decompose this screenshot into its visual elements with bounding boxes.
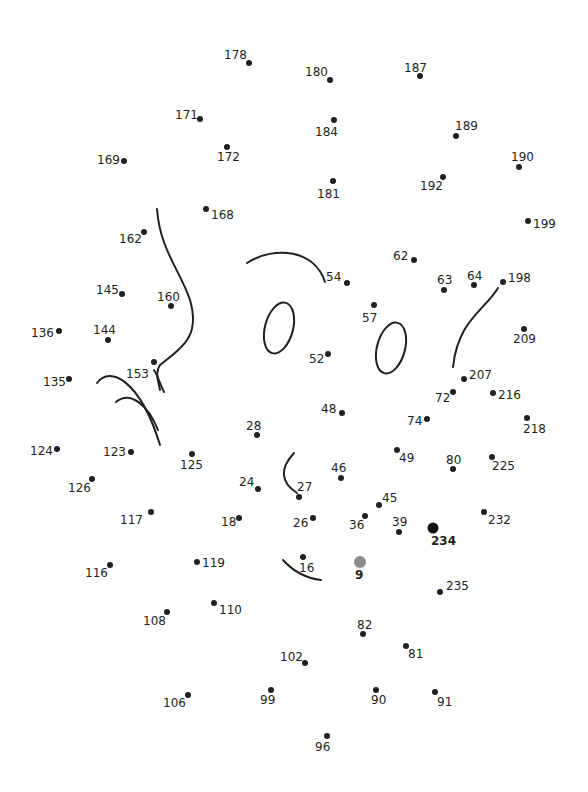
right-eye-ellipse: [371, 319, 412, 376]
dot-234[interactable]: [428, 523, 439, 534]
dot-label: 36: [349, 519, 364, 531]
dot-label: 116: [85, 567, 108, 579]
dot-46[interactable]: [338, 475, 344, 481]
dot-184[interactable]: [331, 117, 337, 123]
dot-label: 145: [96, 284, 119, 296]
dot-label: 153: [126, 368, 149, 380]
brow-arc: [247, 253, 325, 282]
dot-169[interactable]: [121, 158, 127, 164]
dot-181[interactable]: [330, 178, 336, 184]
dot-145[interactable]: [119, 291, 125, 297]
left-eye-ellipse: [259, 299, 300, 356]
dot-label: 168: [211, 209, 234, 221]
dot-label: 81: [408, 648, 423, 660]
dot-label: 45: [382, 492, 397, 504]
dot-label: 28: [246, 420, 261, 432]
dot-57[interactable]: [371, 302, 377, 308]
left-swoosh-lower: [116, 398, 158, 430]
mouth-upper-curve: [284, 453, 297, 493]
dot-153[interactable]: [151, 359, 157, 365]
dot-190[interactable]: [516, 164, 522, 170]
dot-96[interactable]: [324, 733, 330, 739]
dot-235[interactable]: [437, 589, 443, 595]
dot-124[interactable]: [54, 446, 60, 452]
dot-label: 124: [30, 445, 53, 457]
left-swoosh-upper: [97, 376, 160, 445]
dot-48[interactable]: [339, 410, 345, 416]
dot-label: 72: [435, 392, 450, 404]
dot-label: 162: [119, 233, 142, 245]
dot-label: 91: [437, 696, 452, 708]
dot-label: 90: [371, 694, 386, 706]
dot-144[interactable]: [105, 337, 111, 343]
dot-label: 135: [43, 376, 66, 388]
dot-label: 198: [508, 272, 531, 284]
dot-label: 209: [513, 333, 536, 345]
dot-72[interactable]: [450, 389, 456, 395]
dot-168[interactable]: [203, 206, 209, 212]
dot-label: 207: [469, 369, 492, 381]
dot-label: 16: [299, 562, 314, 574]
dot-218[interactable]: [524, 415, 530, 421]
dot-216[interactable]: [490, 390, 496, 396]
dot-135[interactable]: [66, 376, 72, 382]
dot-198[interactable]: [500, 279, 506, 285]
dot-207[interactable]: [461, 376, 467, 382]
dot-label: 54: [326, 271, 341, 283]
dot-125[interactable]: [189, 451, 195, 457]
dot-label: 18: [221, 516, 236, 528]
dot-119[interactable]: [194, 559, 200, 565]
dot-label: 136: [31, 327, 54, 339]
dot-26[interactable]: [310, 515, 316, 521]
dot-74[interactable]: [424, 416, 430, 422]
dot-label: 110: [219, 604, 242, 616]
dot-label: 119: [202, 557, 225, 569]
dot-label: 169: [97, 154, 120, 166]
dot-label: 125: [180, 459, 203, 471]
dot-label: 9: [355, 569, 363, 581]
dot-label: 48: [321, 403, 336, 415]
dot-label: 52: [309, 353, 324, 365]
dot-123[interactable]: [128, 449, 134, 455]
dot-110[interactable]: [211, 600, 217, 606]
dot-199[interactable]: [525, 218, 531, 224]
dot-label: 180: [305, 66, 328, 78]
dot-232[interactable]: [481, 509, 487, 515]
dot-62[interactable]: [411, 257, 417, 263]
dot-63[interactable]: [441, 287, 447, 293]
dot-label: 117: [120, 514, 143, 526]
dot-189[interactable]: [453, 133, 459, 139]
dot-label: 171: [175, 109, 198, 121]
dot-label: 46: [331, 462, 346, 474]
dot-label: 27: [297, 481, 312, 493]
dot-label: 187: [404, 62, 427, 74]
dot-52[interactable]: [325, 351, 331, 357]
dot-18[interactable]: [236, 515, 242, 521]
dot-label: 181: [317, 188, 340, 200]
dot-16[interactable]: [300, 554, 306, 560]
dot-label: 235: [446, 580, 469, 592]
dot-24[interactable]: [255, 486, 261, 492]
dot-117[interactable]: [148, 509, 154, 515]
dot-label: 218: [523, 423, 546, 435]
dot-label: 99: [260, 694, 275, 706]
dot-label: 106: [163, 697, 186, 709]
dot-54[interactable]: [344, 280, 350, 286]
dot-label: 82: [357, 619, 372, 631]
dot-label: 192: [420, 180, 443, 192]
dot-label: 123: [103, 446, 126, 458]
dot-label: 96: [315, 741, 330, 753]
dot-label: 63: [437, 274, 452, 286]
dot-label: 24: [239, 476, 254, 488]
dot-27[interactable]: [296, 494, 302, 500]
dot-label: 172: [217, 151, 240, 163]
dot-39[interactable]: [396, 529, 402, 535]
dot-9[interactable]: [354, 556, 366, 568]
dot-label: 64: [467, 270, 482, 282]
dot-label: 102: [280, 651, 303, 663]
dot-label: 189: [455, 120, 478, 132]
dot-label: 144: [93, 324, 116, 336]
dot-label: 126: [68, 482, 91, 494]
dot-136[interactable]: [56, 328, 62, 334]
dot-label: 225: [492, 460, 515, 472]
